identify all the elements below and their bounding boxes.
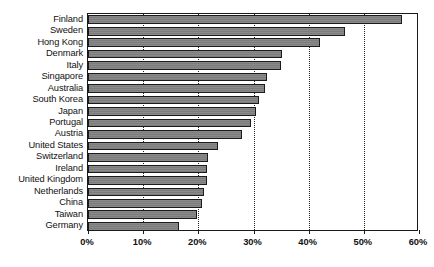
bar — [88, 165, 207, 174]
y-axis-label: Finland — [0, 14, 83, 24]
y-axis-label: Germany — [0, 220, 83, 230]
y-axis-label: Singapore — [0, 71, 83, 81]
bar — [88, 27, 345, 36]
bar — [88, 107, 256, 116]
y-axis-label: Taiwan — [0, 209, 83, 219]
y-axis-label: Ireland — [0, 163, 83, 173]
plot-area — [87, 13, 418, 231]
bar — [88, 96, 259, 105]
bar-row — [88, 210, 419, 219]
bar-row — [88, 50, 419, 59]
bar-row — [88, 96, 419, 105]
y-axis-label: Portugal — [0, 117, 83, 127]
y-axis-label: Denmark — [0, 48, 83, 58]
bar — [88, 222, 179, 231]
bar-row — [88, 142, 419, 151]
x-axis-tick — [254, 230, 255, 234]
bar-row — [88, 27, 419, 36]
x-axis-tick-labels: 0%10%20%30%40%50%60% — [0, 236, 434, 254]
bar-row — [88, 119, 419, 128]
y-axis-label: Netherlands — [0, 186, 83, 196]
y-axis-label: Hong Kong — [0, 37, 83, 47]
x-axis-label: 10% — [133, 236, 152, 248]
x-axis-label: 20% — [188, 236, 207, 248]
y-axis-label: China — [0, 197, 83, 207]
bar-row — [88, 38, 419, 47]
bar — [88, 142, 218, 151]
y-axis-label: Switzerland — [0, 151, 83, 161]
y-axis-label: United States — [0, 140, 83, 150]
bar — [88, 176, 207, 185]
bar-row — [88, 153, 419, 162]
bar-row — [88, 73, 419, 82]
bar-row — [88, 84, 419, 93]
x-axis-tick — [364, 230, 365, 234]
bar-row — [88, 199, 419, 208]
bar-row — [88, 61, 419, 70]
y-axis-label: Austria — [0, 128, 83, 138]
x-axis-label: 60% — [409, 236, 428, 248]
y-axis-label: United Kingdom — [0, 174, 83, 184]
bar — [88, 153, 208, 162]
bar — [88, 61, 281, 70]
bar-row — [88, 130, 419, 139]
y-axis-category-labels: FinlandSwedenHong KongDenmarkItalySingap… — [0, 13, 83, 231]
bar — [88, 15, 402, 24]
y-axis-label: Sweden — [0, 25, 83, 35]
bar — [88, 210, 197, 219]
x-axis-tick — [143, 230, 144, 234]
bar — [88, 38, 320, 47]
bar — [88, 50, 282, 59]
y-axis-label: Australia — [0, 83, 83, 93]
bar — [88, 73, 267, 82]
bar-row — [88, 107, 419, 116]
x-axis-label: 30% — [243, 236, 262, 248]
bar — [88, 84, 265, 93]
bar-row — [88, 15, 419, 24]
y-axis-label: South Korea — [0, 94, 83, 104]
bars-layer — [88, 14, 417, 230]
bar-row — [88, 176, 419, 185]
bar — [88, 199, 202, 208]
bar-row — [88, 165, 419, 174]
x-axis-tick — [419, 230, 420, 234]
bar-row — [88, 188, 419, 197]
x-axis-tick — [88, 230, 89, 234]
x-axis-label: 0% — [80, 236, 93, 248]
x-axis-tick — [309, 230, 310, 234]
x-axis-label: 50% — [354, 236, 373, 248]
bar-chart: FinlandSwedenHong KongDenmarkItalySingap… — [0, 0, 434, 267]
y-axis-label: Japan — [0, 106, 83, 116]
bar — [88, 130, 242, 139]
y-axis-label: Italy — [0, 60, 83, 70]
bar — [88, 188, 204, 197]
bar — [88, 119, 251, 128]
x-axis-label: 40% — [298, 236, 317, 248]
x-axis-tick — [198, 230, 199, 234]
